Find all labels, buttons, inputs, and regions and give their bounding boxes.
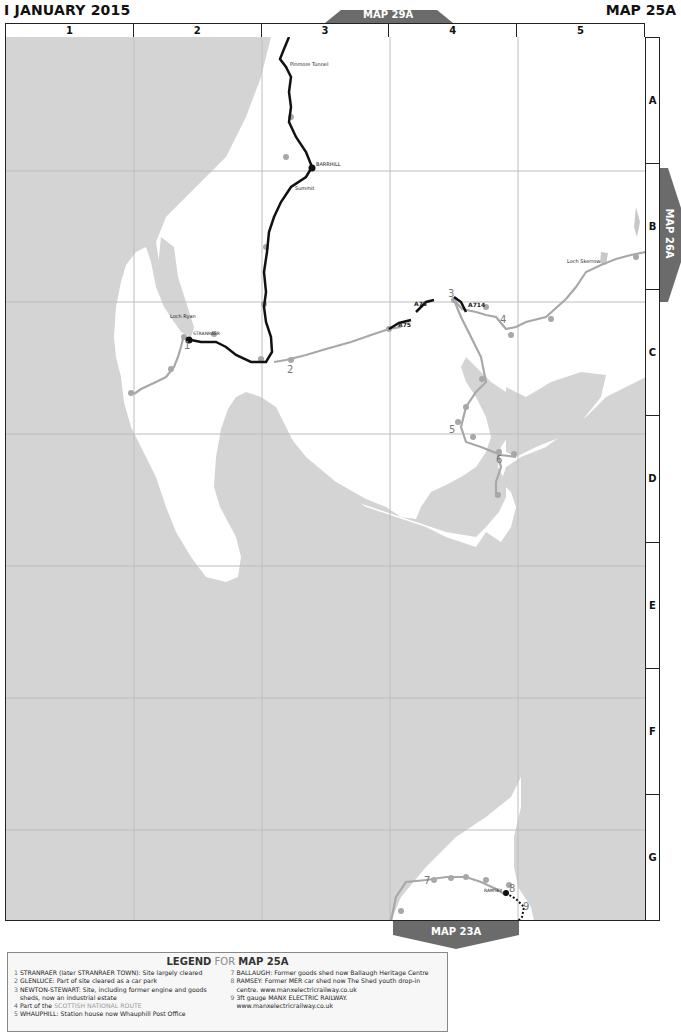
- label-loch-ryan: Loch Ryan: [170, 313, 196, 320]
- legend-title-map: MAP 25A: [238, 956, 288, 967]
- label-stranraer: STRANRAER: [193, 331, 220, 336]
- grid-column-label: 3: [262, 24, 390, 37]
- adjacent-map-south-label: MAP 23A: [431, 926, 481, 937]
- grid-column-label: 5: [517, 24, 644, 37]
- grid-row-label: E: [646, 543, 659, 669]
- label-summit: Summit: [295, 185, 314, 191]
- legend-item: 3 NEWTON-STEWART: Site, including former…: [14, 986, 225, 994]
- adjacent-map-east-tab[interactable]: MAP 26A: [660, 168, 681, 302]
- legend-item: 8 RAMSEY: Former MER car shed now The Sh…: [231, 977, 442, 985]
- map-drawing: Pinmore Tunnel BARRHILL Summit Loch Ryan…: [6, 37, 645, 921]
- legend-item: 1 STRANRAER (later STRANRAER TOWN): Site…: [14, 969, 225, 977]
- grid-row-header: A B C D E F G: [645, 37, 660, 921]
- legend-column-left: 1 STRANRAER (later STRANRAER TOWN): Site…: [14, 969, 225, 1019]
- legend-item: www.manxelectricrailway.co.uk: [231, 1002, 442, 1010]
- land-mainland: [114, 37, 645, 582]
- legend-item: centre. www.manxelectricrailway.co.uk: [231, 986, 442, 994]
- grid-row-label: C: [646, 290, 659, 416]
- adjacent-map-south-tab[interactable]: MAP 23A: [393, 921, 519, 949]
- site-number-3: 3: [448, 288, 454, 299]
- site-number-8: 8: [509, 883, 515, 894]
- map-canvas[interactable]: Pinmore Tunnel BARRHILL Summit Loch Ryan…: [5, 37, 645, 921]
- site-number-2: 2: [287, 364, 293, 375]
- site-number-7: 7: [424, 875, 430, 886]
- site-number-9: 9: [523, 901, 529, 912]
- grid-column-label: 4: [389, 24, 517, 37]
- land-isle-of-man: [391, 777, 534, 921]
- legend-panel: LEGEND FOR MAP 25A 1 STRANRAER (later ST…: [7, 952, 448, 1032]
- grid-row-label: D: [646, 416, 659, 542]
- grid-row-label: B: [646, 164, 659, 290]
- legend-column-right: 7 BALLAUGH: Former goods shed now Ballau…: [231, 969, 442, 1019]
- legend-title: LEGEND FOR MAP 25A: [14, 956, 441, 968]
- site-number-1: 1: [184, 340, 190, 351]
- grid-row-label: A: [646, 38, 659, 164]
- label-a75-upper: A75: [414, 300, 427, 307]
- adjacent-map-north-label: MAP 29A: [363, 9, 413, 20]
- adjacent-map-east-label: MAP 26A: [664, 208, 675, 258]
- grid-column-label: 2: [134, 24, 262, 37]
- label-pinmore-tunnel: Pinmore Tunnel: [290, 61, 328, 67]
- legend-item: 5 WHAUPHILL: Station house now Whauphill…: [14, 1010, 225, 1018]
- grid-column-label: 1: [6, 24, 134, 37]
- site-number-4: 4: [500, 314, 506, 325]
- legend-title-for: FOR: [211, 956, 238, 967]
- legend-item: 7 BALLAUGH: Former goods shed now Ballau…: [231, 969, 442, 977]
- label-loch-skerrow: Loch Skerrow: [567, 258, 600, 264]
- site-number-5: 5: [449, 424, 455, 435]
- page-date: I JANUARY 2015: [4, 2, 130, 18]
- legend-title-word: LEGEND: [166, 956, 211, 967]
- legend-item: 2 GLENLUCE: Part of site cleared as a ca…: [14, 977, 225, 985]
- legend-item: 4 Part of the SCOTTISH NATIONAL ROUTE: [14, 1002, 225, 1010]
- grid-row-label: F: [646, 669, 659, 795]
- page-map-id: MAP 25A: [606, 2, 676, 18]
- label-a75-lower: A75: [398, 321, 411, 328]
- label-a714: A714: [468, 301, 485, 308]
- label-ramsey: RAMSEY: [484, 888, 503, 893]
- scottish-national-route-link[interactable]: SCOTTISH NATIONAL ROUTE: [54, 1002, 141, 1009]
- grid-row-label: G: [646, 795, 659, 920]
- station-barrhill: [309, 165, 316, 172]
- label-barrhill: BARRHILL: [316, 161, 341, 167]
- legend-item: sheds, now an industrial estate: [14, 994, 225, 1002]
- grid-column-header: 1 2 3 4 5: [5, 23, 645, 38]
- legend-item: 9 3ft gauge MANX ELECTRIC RAILWAY.: [231, 994, 442, 1002]
- site-number-6: 6: [496, 454, 502, 465]
- adjacent-map-north-tab[interactable]: MAP 29A: [325, 0, 453, 23]
